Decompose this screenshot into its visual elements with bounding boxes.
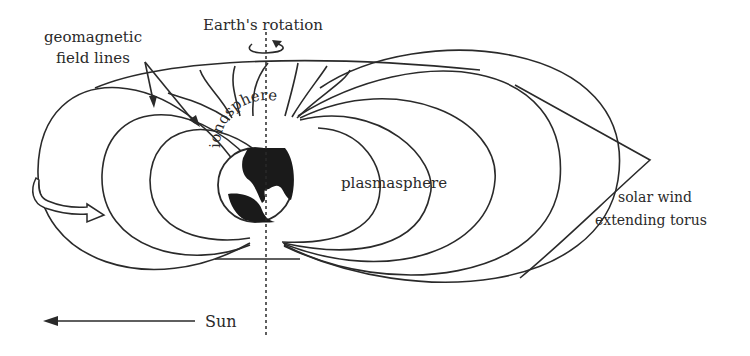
plasmasphere-diagram: geomagnetic field lines Earth's rotation… <box>0 0 750 356</box>
label-solar-wind: solar wind <box>618 189 692 205</box>
label-plasmasphere: plasmasphere <box>341 174 447 192</box>
label-geomagnetic: geomagnetic <box>44 28 142 46</box>
torus-top-boundary <box>95 61 480 88</box>
sun-direction-arrow <box>43 316 195 326</box>
label-field-lines: field lines <box>56 49 130 67</box>
label-extending-torus: extending torus <box>595 212 707 228</box>
label-earth-rotation: Earth's rotation <box>203 16 323 34</box>
field-line-right-far2 <box>284 50 620 282</box>
earth-globe <box>218 148 294 223</box>
polar-field-lines <box>168 63 350 120</box>
label-sun: Sun <box>205 312 237 331</box>
solar-wind-torus <box>515 85 650 278</box>
solar-flow-hollow-arrow <box>33 178 104 222</box>
